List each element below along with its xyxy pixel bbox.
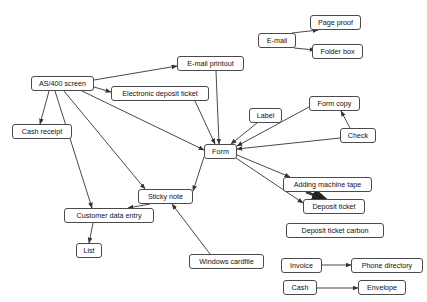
- node-label: List: [83, 247, 94, 254]
- node-label: E-mail: [267, 37, 287, 44]
- node-cash_receipt[interactable]: Cash receipt: [12, 124, 72, 139]
- node-envelope[interactable]: Envelope: [358, 280, 406, 295]
- node-dtc[interactable]: Deposit ticket carbon: [286, 223, 384, 238]
- diagram-edge-form-to-sticky_note: [193, 157, 204, 191]
- diagram-edge-label-to-form: [231, 123, 257, 144]
- diagram-edge-check-to-form_copy: [341, 111, 350, 128]
- diagram-edge-email_print-to-form: [216, 71, 219, 144]
- node-label: Cash receipt: [22, 128, 62, 135]
- node-label: Cash: [292, 284, 309, 291]
- node-label: AS/400 screen: [39, 80, 86, 87]
- node-folder_box[interactable]: Folder box: [312, 44, 363, 59]
- node-label: Deposit ticket carbon: [301, 227, 368, 234]
- node-list[interactable]: List: [76, 243, 102, 258]
- diagram-edge-form-to-adding_tape: [237, 155, 290, 177]
- node-email[interactable]: E-mail: [258, 33, 296, 48]
- diagram-edge-cust_entry-to-list: [89, 223, 93, 243]
- node-as400[interactable]: AS/400 screen: [31, 76, 94, 91]
- diagram-edge-check-to-form: [237, 138, 340, 149]
- node-page_proof[interactable]: Page proof: [310, 15, 361, 30]
- node-edt[interactable]: Electronic deposit ticket: [111, 86, 209, 101]
- node-label: Phone directory: [362, 262, 412, 269]
- diagram-canvas: AS/400 screenCash receiptElectronic depo…: [0, 0, 427, 302]
- node-check[interactable]: Check: [340, 128, 376, 143]
- node-label: Sticky note: [148, 193, 183, 200]
- diagram-edge-win_cardfile-to-sticky_note: [172, 204, 210, 254]
- node-label: Windows cardfile: [199, 258, 253, 265]
- diagram-edge-email-to-page_proof: [292, 30, 318, 33]
- diagram-edge-as400-to-email_print: [94, 66, 177, 80]
- diagram-edge-as400-to-sticky_note: [64, 91, 145, 189]
- diagram-edge-edt-to-form: [195, 101, 215, 144]
- node-form_copy[interactable]: Form copy: [309, 96, 360, 111]
- node-invoice[interactable]: Invoice: [281, 258, 322, 273]
- node-label[interactable]: Label: [249, 108, 282, 123]
- node-adding_tape[interactable]: Adding machine tape: [283, 177, 372, 192]
- node-label: Adding machine tape: [294, 181, 362, 188]
- node-label: Page proof: [318, 19, 353, 26]
- node-form[interactable]: Form: [204, 144, 237, 159]
- node-label: Folder box: [321, 48, 355, 55]
- node-label: Invoice: [290, 262, 313, 269]
- node-label: Customer data entry: [76, 212, 141, 219]
- node-label: E-mail printout: [187, 60, 233, 67]
- diagram-edge-as400-to-cust_entry: [55, 91, 92, 208]
- node-label: Check: [348, 132, 368, 139]
- node-email_print[interactable]: E-mail printout: [177, 56, 244, 71]
- node-phone_dir[interactable]: Phone directory: [351, 258, 423, 273]
- node-label: Label: [257, 112, 275, 119]
- node-win_cardfile[interactable]: Windows cardfile: [189, 254, 264, 269]
- node-cash[interactable]: Cash: [283, 280, 317, 295]
- diagram-edge-as400-to-cash_receipt: [40, 91, 49, 124]
- node-cust_entry[interactable]: Customer data entry: [64, 208, 154, 223]
- node-deposit_tkt[interactable]: Deposit ticket: [303, 199, 365, 214]
- node-sticky_note[interactable]: Sticky note: [138, 189, 193, 204]
- node-label: Form copy: [318, 100, 352, 107]
- diagram-edge-adding_tape-to-deposit_tkt: [306, 192, 325, 199]
- node-label: Deposit ticket: [312, 203, 355, 210]
- node-label: Envelope: [367, 284, 397, 291]
- diagram-edge-as400-to-edt: [94, 87, 111, 92]
- node-label: Form: [212, 148, 229, 155]
- node-label: Electronic deposit ticket: [122, 90, 198, 97]
